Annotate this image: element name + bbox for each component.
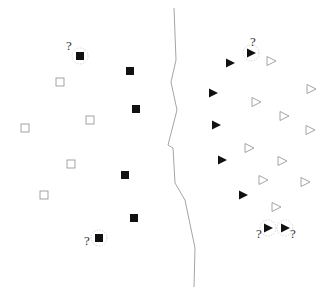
filled-triangle-marker [239, 191, 248, 200]
filled-triangle-marker [264, 224, 273, 233]
filled-triangle-marker [218, 156, 227, 165]
filled-square-marker [121, 171, 129, 179]
filled-square-marker [76, 52, 84, 60]
hollow-triangle-marker [307, 85, 316, 94]
hollow-triangle-marker [306, 126, 315, 135]
left-class-squares [21, 52, 140, 242]
question-mark-right-6: ? [256, 226, 262, 241]
filled-square-marker [130, 214, 138, 222]
filled-triangle-marker [247, 49, 256, 58]
question-mark-left-0: ? [66, 38, 72, 53]
decision-boundary-line [168, 8, 195, 287]
classification-diagram: ????? [0, 0, 330, 296]
question-mark-right-7: ? [290, 226, 296, 241]
question-mark-left-5: ? [84, 233, 90, 248]
filled-square-marker [95, 234, 103, 242]
hollow-triangle-marker [301, 178, 310, 187]
hollow-square-marker [86, 116, 94, 124]
filled-triangle-marker [226, 59, 235, 68]
hollow-square-marker [56, 78, 64, 86]
filled-triangle-marker [212, 121, 221, 130]
filled-triangle-marker [209, 89, 218, 98]
query-markers: ????? [66, 34, 296, 248]
filled-triangle-marker [281, 224, 290, 233]
filled-square-marker [132, 105, 140, 113]
hollow-triangle-marker [278, 157, 287, 166]
hollow-square-marker [67, 160, 75, 168]
hollow-square-marker [40, 191, 48, 199]
right-class-triangles [209, 49, 316, 233]
question-mark-right-0: ? [250, 34, 256, 49]
hollow-triangle-marker [259, 176, 268, 185]
filled-square-marker [126, 67, 134, 75]
hollow-triangle-marker [280, 112, 289, 121]
hollow-triangle-marker [245, 144, 254, 153]
hollow-triangle-marker [267, 57, 276, 66]
hollow-triangle-marker [272, 203, 281, 212]
hollow-triangle-marker [252, 98, 261, 107]
hollow-square-marker [21, 124, 29, 132]
